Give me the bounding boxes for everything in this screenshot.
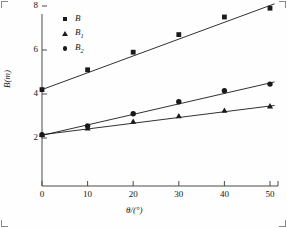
legend-label-base: B <box>75 13 81 23</box>
square-marker-glyph <box>63 17 67 21</box>
triangle-marker-icon <box>58 31 72 36</box>
legend-label-B1: B1 <box>75 28 84 40</box>
data-point-B-10 <box>85 67 90 72</box>
legend-item-B2: B2 <box>58 41 106 56</box>
data-point-B2-0 <box>39 132 44 137</box>
data-point-B2-40 <box>222 88 227 93</box>
x-tick-label-50: 50 <box>260 189 280 199</box>
square-marker-icon <box>58 17 72 21</box>
y-tick-label-6: 6 <box>24 44 38 54</box>
data-point-B-50 <box>268 6 273 11</box>
y-tick-label-4: 4 <box>24 88 38 98</box>
x-tick-label-30: 30 <box>169 189 189 199</box>
x-axis-title: θ/(°) <box>126 205 143 215</box>
triangle-marker-glyph <box>62 31 68 36</box>
x-tick-label-40: 40 <box>214 189 234 199</box>
legend-label-B: B <box>75 14 81 23</box>
data-point-B1-20 <box>130 119 136 124</box>
data-point-B-20 <box>131 50 136 55</box>
chart-legend: BB1B2 <box>58 11 106 56</box>
y-axis-title: B(m) <box>2 70 12 88</box>
x-axis-title-text: θ/(°) <box>126 205 143 215</box>
x-tick-label-10: 10 <box>78 189 98 199</box>
data-point-B1-30 <box>176 113 182 118</box>
data-point-B-30 <box>176 32 181 37</box>
x-tick-label-0: 0 <box>32 189 52 199</box>
legend-item-B1: B1 <box>58 26 106 41</box>
legend-item-B: B <box>58 11 106 26</box>
y-tick-label-2: 2 <box>24 132 38 142</box>
data-point-B2-10 <box>85 123 90 128</box>
fit-line-B2 <box>42 82 275 135</box>
x-tick-label-20: 20 <box>123 189 143 199</box>
data-point-B1-40 <box>221 108 227 113</box>
legend-label-B2: B2 <box>75 43 84 55</box>
data-point-B-40 <box>222 15 227 20</box>
data-point-B2-20 <box>131 111 136 116</box>
y-tick-label-8: 8 <box>24 0 38 10</box>
data-point-B-0 <box>40 87 45 92</box>
circle-marker-glyph <box>63 46 68 51</box>
data-point-B2-30 <box>176 99 181 104</box>
circle-marker-icon <box>58 46 72 51</box>
y-axis-title-text: B(m) <box>2 70 12 88</box>
legend-label-subscript: 1 <box>81 31 84 38</box>
data-point-B2-50 <box>267 81 272 86</box>
fit-line-B1 <box>42 105 275 134</box>
figure-container: 246801020304050 B(m) θ/(°) BB1B2 <box>0 0 287 228</box>
legend-label-subscript: 2 <box>81 46 84 53</box>
